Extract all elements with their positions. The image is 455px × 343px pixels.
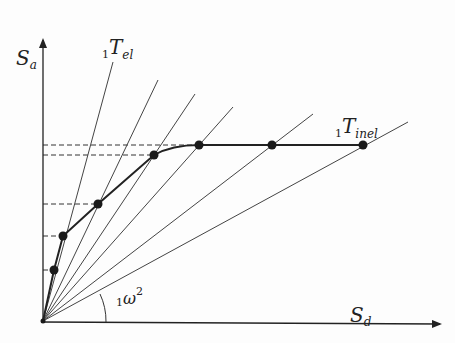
diagram-canvas: Sa Sd 1Tel 1Tinel 1ω2 [0, 0, 455, 343]
performance-point [59, 232, 68, 241]
dashed-level-lines [43, 145, 199, 270]
period-ray [43, 94, 195, 321]
origin-point [41, 319, 46, 324]
performance-point [268, 141, 277, 150]
x-axis [41, 322, 440, 324]
x-axis-label: Sd [350, 303, 372, 329]
period-ray [43, 122, 408, 321]
period-rays [43, 62, 408, 321]
elastic-period-label: 1Tel [102, 35, 133, 62]
omega-squared-label: 1ω2 [116, 285, 143, 309]
performance-point [359, 141, 368, 150]
performance-point [150, 151, 159, 160]
capacity-spectrum-diagram: Sa Sd 1Tel 1Tinel 1ω2 [0, 0, 455, 343]
inelastic-period-label: 1Tinel [335, 114, 378, 141]
performance-point [195, 141, 204, 150]
y-axis-label: Sa [16, 46, 37, 72]
angle-arc [100, 294, 106, 322]
performance-point [94, 200, 103, 209]
performance-point [50, 266, 59, 275]
